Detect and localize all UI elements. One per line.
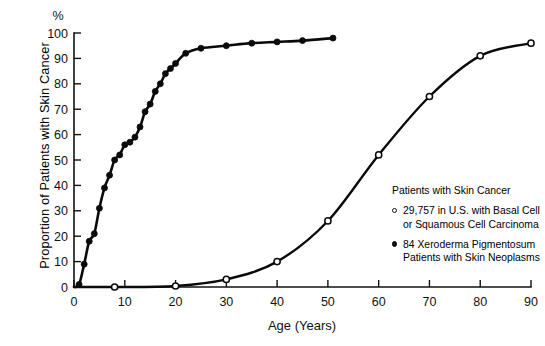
data-point-filled (223, 43, 229, 49)
data-point-open (426, 93, 432, 99)
data-point-filled (132, 134, 138, 140)
data-point-filled (117, 152, 123, 158)
chart-plot-area: 0102030405060708090100 01020304050607080… (0, 0, 545, 346)
y-tick-label: 80 (54, 77, 68, 91)
data-point-open (274, 259, 280, 265)
data-point-filled (183, 50, 189, 56)
x-tick-label: 50 (321, 295, 335, 309)
y-tick-label: 30 (54, 204, 68, 218)
filled-circle-icon (392, 241, 397, 246)
percent-unit-label: % (52, 9, 63, 23)
x-axis-title: Age (Years) (268, 318, 336, 333)
data-point-filled (249, 40, 255, 46)
data-point-filled (127, 139, 133, 145)
data-point-filled (76, 281, 82, 287)
y-tick-label: 60 (54, 128, 68, 142)
legend-title: Patients with Skin Cancer (392, 184, 542, 197)
y-tick-label: 70 (54, 103, 68, 117)
x-tick-label: 0 (71, 295, 78, 309)
chart-legend: Patients with Skin Cancer 29,757 in U.S.… (392, 184, 542, 272)
data-point-open (172, 283, 178, 289)
y-tick-label: 90 (54, 52, 68, 66)
data-point-filled (162, 71, 168, 77)
data-point-filled (157, 81, 163, 87)
x-tick-label: 20 (169, 295, 183, 309)
data-point-filled (137, 124, 143, 130)
data-point-filled (86, 238, 92, 244)
legend-item-line2: Patients with Skin Neoplasms (403, 251, 542, 264)
data-point-filled (142, 109, 148, 115)
skin-cancer-age-chart: 0102030405060708090100 01020304050607080… (0, 0, 545, 346)
data-point-open (112, 284, 118, 290)
data-point-filled (81, 261, 87, 267)
legend-item-line2: or Squamous Cell Carcinoma (403, 218, 542, 231)
data-point-filled (330, 35, 336, 41)
y-tick-label: 0 (61, 281, 68, 295)
x-tick-label: 30 (219, 295, 233, 309)
x-tick-label: 10 (118, 295, 132, 309)
data-point-open (376, 152, 382, 158)
y-tick-label: 50 (54, 154, 68, 168)
x-tick-label: 70 (422, 295, 436, 309)
data-point-filled (101, 185, 107, 191)
data-point-open (223, 276, 229, 282)
data-point-open (325, 218, 331, 224)
x-tick-label: 40 (270, 295, 284, 309)
data-point-filled (167, 66, 173, 72)
legend-item-xeroderma: 84 Xeroderma Pigmentosum Patients with S… (392, 238, 542, 265)
data-point-filled (198, 45, 204, 51)
data-point-open (477, 53, 483, 59)
x-tick-label: 80 (473, 295, 487, 309)
open-circle-icon (392, 208, 397, 213)
data-point-filled (112, 157, 118, 163)
legend-item-basal-squamous: 29,757 in U.S. with Basal Cell or Squamo… (392, 204, 542, 231)
data-point-filled (147, 101, 153, 107)
y-tick-label: 20 (54, 230, 68, 244)
data-point-filled (300, 38, 306, 44)
legend-item-line1: 29,757 in U.S. with Basal Cell (403, 204, 542, 217)
data-point-filled (107, 172, 113, 178)
data-point-filled (91, 231, 97, 237)
x-tick-label: 60 (372, 295, 386, 309)
legend-item-line1: 84 Xeroderma Pigmentosum (403, 238, 542, 251)
data-point-filled (173, 60, 179, 66)
y-axis-ticks (74, 33, 81, 287)
data-point-open (528, 40, 534, 46)
y-axis-title: Proportion of Patients with Skin Cancer (37, 26, 52, 286)
y-tick-label: 40 (54, 179, 68, 193)
y-tick-label: 10 (54, 255, 68, 269)
data-point-filled (274, 39, 280, 45)
data-point-filled (152, 88, 158, 94)
x-tick-label: 90 (524, 295, 538, 309)
x-axis-tick-labels: 0102030405060708090 (71, 295, 538, 309)
data-point-filled (96, 205, 102, 211)
